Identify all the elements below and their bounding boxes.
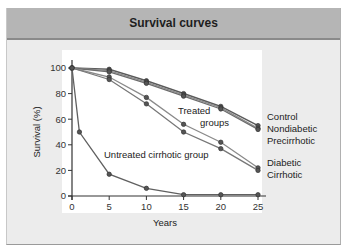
legend-label-cirrhotic: Cirrhotic — [267, 169, 303, 180]
treated-groups-label: groups — [200, 117, 229, 128]
legend-label-control: Control — [267, 111, 298, 122]
data-point-marker — [219, 193, 223, 197]
data-point-marker — [181, 130, 185, 134]
y-tick-label: 100 — [50, 62, 66, 73]
y-tick-label: 60 — [55, 114, 66, 125]
x-tick-label: 5 — [107, 201, 112, 212]
data-point-marker — [219, 146, 223, 150]
data-point-marker — [144, 81, 148, 85]
data-point-marker — [256, 168, 260, 172]
legend-label-nondiabetic: Nondiabetic — [267, 123, 317, 134]
data-point-marker — [107, 70, 111, 74]
data-point-marker — [144, 186, 148, 190]
data-point-marker — [70, 66, 74, 70]
y-axis-label: Survival (%) — [31, 106, 42, 157]
legend-label-diabetic: Diabetic — [267, 157, 302, 168]
x-tick-label: 0 — [69, 201, 74, 212]
data-point-marker — [256, 127, 260, 131]
y-tick-label: 20 — [55, 165, 66, 176]
data-point-marker — [256, 193, 260, 197]
data-point-marker — [181, 122, 185, 126]
survival-chart: 0204060801000510152025YearsSurvival (%) … — [0, 0, 342, 247]
x-tick-label: 15 — [178, 201, 189, 212]
untreated-label: Untreated cirrhotic group — [104, 149, 209, 160]
data-point-marker — [219, 107, 223, 111]
treated-label: Treated — [178, 105, 210, 116]
data-point-marker — [144, 95, 148, 99]
y-tick-label: 80 — [55, 88, 66, 99]
y-tick-label: 0 — [61, 190, 66, 201]
data-point-marker — [181, 94, 185, 98]
x-tick-label: 20 — [216, 201, 227, 212]
x-tick-label: 25 — [253, 201, 264, 212]
y-tick-label: 40 — [55, 139, 66, 150]
data-point-marker — [107, 172, 111, 176]
data-point-marker — [181, 193, 185, 197]
data-point-marker — [77, 130, 81, 134]
x-axis-label: Years — [153, 217, 177, 228]
legend-label-precirrhotic: Precirrhotic — [267, 135, 315, 146]
data-point-marker — [219, 140, 223, 144]
x-tick-label: 10 — [141, 201, 152, 212]
data-point-marker — [107, 77, 111, 81]
data-point-marker — [144, 102, 148, 106]
